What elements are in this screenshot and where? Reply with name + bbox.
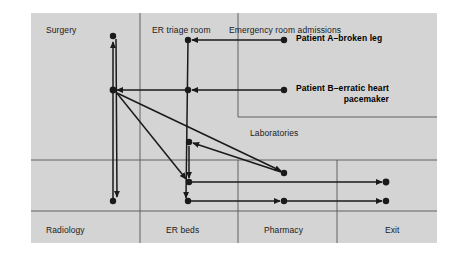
patient-legend-line2: pacemaker [296, 94, 389, 105]
node-radiology [110, 198, 116, 204]
node-exit-lower [383, 198, 389, 204]
node-lab-right [281, 170, 287, 176]
path-leftmid-to-erbedupper [116, 92, 186, 179]
node-surgery [110, 33, 116, 39]
path-labright-to-labtop [193, 143, 281, 172]
path-nodes-group [110, 33, 390, 204]
patient-legend-patient-b: Patient B–erratic heartpacemaker [296, 83, 389, 105]
node-lab-top [186, 139, 192, 145]
patient-paths-group [113, 39, 382, 201]
node-ertriage-b [185, 87, 191, 93]
path-triageA-to-erbedlower [186, 41, 188, 198]
zone-label-exit: Exit [385, 225, 400, 235]
node-left-mid [110, 87, 117, 94]
grid-lines-group [31, 13, 437, 243]
zone-label-pharmacy: Pharmacy [264, 225, 303, 235]
patient-legend-line1: Patient B–erratic heart [296, 83, 389, 94]
patient-legend-patient-a: Patient A–broken leg [296, 33, 382, 44]
node-admissions-a [281, 37, 287, 43]
node-pharmacy [281, 198, 287, 204]
node-ertriage-a [185, 37, 191, 43]
diagram-vector-layer [0, 0, 454, 255]
zone-label-surgery: Surgery [46, 25, 76, 35]
node-erbed-lower [185, 198, 191, 204]
patient-legend-line1: Patient A–broken leg [296, 33, 382, 44]
zone-label-laboratories: Laboratories [250, 128, 298, 138]
zone-label-radiology: Radiology [46, 225, 85, 235]
zone-label-er-triage: ER triage room [152, 25, 211, 35]
path-surgery-to-radiology [116, 39, 117, 197]
zone-label-er-beds: ER beds [166, 225, 199, 235]
node-admissions-b [281, 87, 287, 93]
node-erbed-upper [186, 179, 192, 185]
node-exit-upper [383, 179, 390, 186]
diagram-root: SurgeryER triage roomEmergency room admi… [0, 0, 454, 255]
